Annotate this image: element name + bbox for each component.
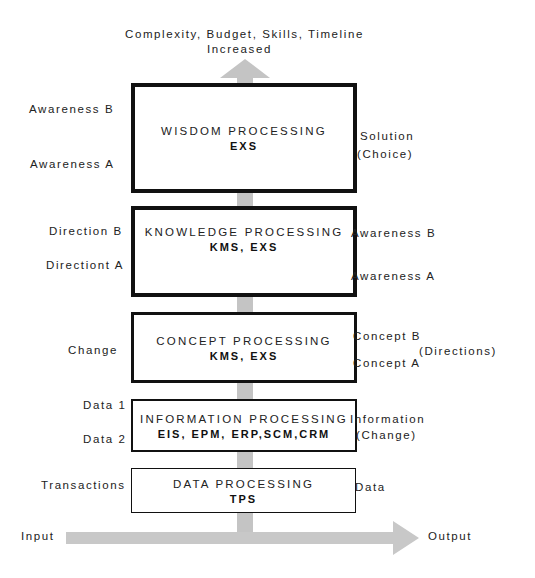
wisdom-title: WISDOM PROCESSING (161, 123, 327, 139)
top-caption-line2: Increased (207, 43, 272, 55)
knowledge-title: KNOWLEDGE PROCESSING (145, 224, 344, 240)
data-processing-box: DATA PROCESSING TPS (131, 468, 356, 513)
wisdom-left-label-b: Awareness B (29, 103, 114, 115)
information-systems: EIS, EPM, ERP,SCM,CRM (158, 427, 331, 441)
concept-right-label-directions: (Directions) (419, 345, 497, 357)
knowledge-left-label-a: Directiont A (46, 259, 124, 271)
data-systems: TPS (230, 492, 257, 506)
information-title: INFORMATION PROCESSING (140, 411, 348, 427)
information-right-label-change: (Change) (356, 429, 417, 441)
knowledge-systems: KMS, EXS (210, 240, 279, 254)
input-label: Input (21, 530, 55, 542)
data-left-label-transactions: Transactions (41, 479, 126, 491)
up-arrow-head-icon (220, 59, 270, 78)
information-right-label-information: Information (350, 413, 425, 425)
information-left-label-data1: Data 1 (83, 399, 126, 411)
concept-processing-box: CONCEPT PROCESSING KMS, EXS (131, 312, 357, 383)
wisdom-systems: EXS (230, 139, 258, 153)
information-left-label-data2: Data 2 (83, 433, 126, 445)
data-right-label-data: Data (355, 481, 386, 493)
concept-title: CONCEPT PROCESSING (156, 333, 332, 349)
output-label: Output (428, 530, 472, 542)
wisdom-left-label-a: Awareness A (30, 158, 115, 170)
knowledge-left-label-b: Direction B (49, 225, 123, 237)
concept-right-label-a: Concept A (353, 357, 420, 369)
wisdom-right-label-solution: Solution (360, 130, 414, 142)
concept-left-label-change: Change (68, 344, 118, 356)
knowledge-processing-box: KNOWLEDGE PROCESSING KMS, EXS (131, 206, 357, 297)
right-arrow-head-icon (393, 521, 419, 555)
horizontal-arrow-shaft (66, 532, 396, 544)
data-title: DATA PROCESSING (173, 476, 314, 492)
knowledge-right-label-b: Awareness B (351, 227, 436, 239)
wisdom-processing-box: WISDOM PROCESSING EXS (131, 83, 357, 193)
concept-right-label-b: Concept B (353, 330, 421, 342)
wisdom-right-label-choice: (Choice) (357, 148, 413, 160)
information-processing-box: INFORMATION PROCESSING EIS, EPM, ERP,SCM… (131, 399, 357, 452)
concept-systems: KMS, EXS (210, 349, 279, 363)
knowledge-right-label-a: Awareness A (351, 270, 436, 282)
top-caption-line1: Complexity, Budget, Skills, Timeline (125, 28, 364, 40)
